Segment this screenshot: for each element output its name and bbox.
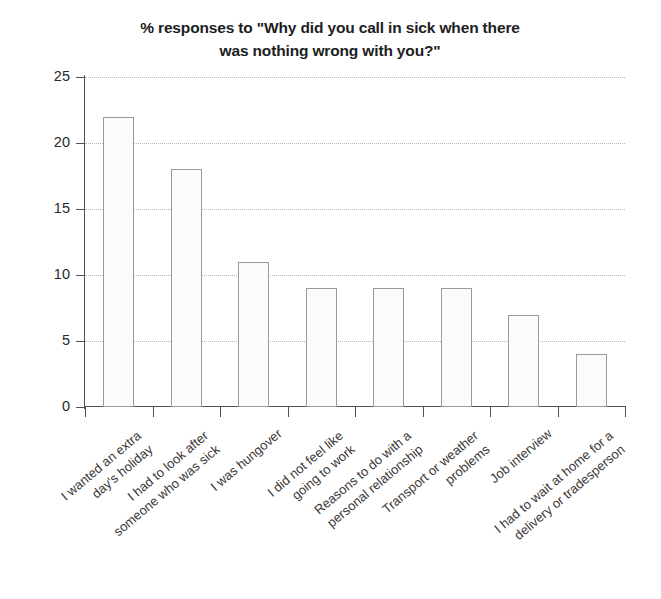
y-tick-15 [76,209,85,210]
bar-chart: % responses to "Why did you call in sick… [0,0,661,599]
y-tick-10 [76,275,85,276]
y-tick-0 [76,407,85,408]
y-tick-5 [76,341,85,342]
x-axis-category-labels: I wanted an extraday's holidayI had to l… [0,0,661,599]
y-tick-20 [76,143,85,144]
y-tick-25 [76,77,85,78]
